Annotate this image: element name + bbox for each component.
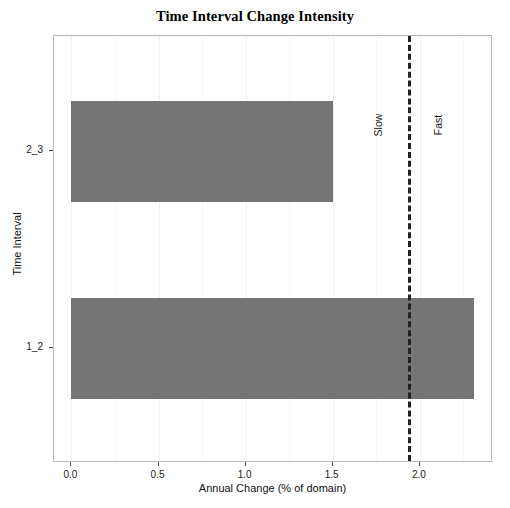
- plot-area: SlowFast: [53, 35, 492, 462]
- x-tick-mark: [419, 462, 420, 466]
- x-axis-label: Annual Change (% of domain): [53, 482, 492, 494]
- x-tick-mark: [245, 462, 246, 466]
- y-axis-label: Time Interval: [11, 184, 23, 304]
- y-tick-mark: [49, 347, 53, 348]
- bar-2_3: [71, 101, 332, 202]
- x-tick-mark: [70, 462, 71, 466]
- y-tick-mark: [49, 150, 53, 151]
- chart-figure: Time Interval Change Intensity SlowFast …: [0, 0, 510, 508]
- y-tick-label-1_2: 1_2: [3, 341, 43, 352]
- x-tick-label: 1.0: [225, 469, 265, 480]
- x-tick-label: 1.5: [312, 469, 352, 480]
- y-tick-label-2_3: 2_3: [3, 144, 43, 155]
- x-tick-mark: [332, 462, 333, 466]
- x-tick-label: 0.0: [50, 469, 90, 480]
- threshold-line: [408, 36, 411, 461]
- bar-1_2: [71, 298, 473, 399]
- x-tick-label: 0.5: [138, 469, 178, 480]
- threshold-label-slow: Slow: [372, 103, 384, 147]
- threshold-label-fast: Fast: [432, 103, 444, 147]
- x-tick-label: 2.0: [399, 469, 439, 480]
- page-title: Time Interval Change Intensity: [0, 8, 510, 25]
- x-tick-mark: [158, 462, 159, 466]
